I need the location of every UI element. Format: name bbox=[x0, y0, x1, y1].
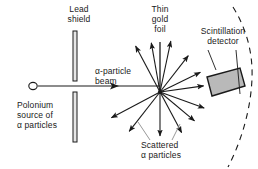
label-lead-shield: Lead shield bbox=[57, 4, 101, 24]
lead-shield-top-bar bbox=[73, 31, 77, 81]
label-scintillation-detector-line1: Scintillation bbox=[191, 26, 255, 36]
leader-line-scattered-left bbox=[138, 122, 150, 140]
label-polonium-source-line3: α particles bbox=[17, 120, 57, 130]
scattered-ray bbox=[129, 92, 160, 131]
label-polonium-source: Polonium source of α particles bbox=[17, 100, 57, 130]
polonium-source-icon bbox=[29, 82, 37, 89]
scattered-ray bbox=[160, 92, 204, 108]
scattered-alpha-rays bbox=[111, 41, 204, 136]
label-alpha-beam: α-particle beam bbox=[95, 66, 131, 86]
label-polonium-source-line1: Polonium bbox=[17, 100, 57, 110]
scattered-ray bbox=[160, 92, 195, 121]
label-thin-gold-foil-line2: gold bbox=[140, 14, 180, 24]
label-alpha-beam-line1: α-particle bbox=[95, 66, 131, 76]
label-thin-gold-foil-line3: foil bbox=[140, 24, 180, 34]
rutherford-scattering-diagram: Lead shield Thin gold foil Scintillation… bbox=[0, 0, 258, 169]
label-thin-gold-foil-line1: Thin bbox=[140, 4, 180, 14]
leader-line-detector-left bbox=[208, 50, 216, 70]
label-polonium-source-line2: source of bbox=[17, 110, 57, 120]
label-scintillation-detector-line2: detector bbox=[191, 36, 255, 46]
label-scattered-particles-line2: α particles bbox=[141, 150, 181, 160]
leader-line-scattered-right bbox=[172, 124, 180, 140]
label-alpha-beam-line2: beam bbox=[95, 76, 131, 86]
label-thin-gold-foil: Thin gold foil bbox=[140, 4, 180, 34]
label-scattered-particles-line1: Scattered bbox=[141, 140, 181, 150]
label-scattered-particles: Scattered α particles bbox=[141, 140, 181, 160]
label-lead-shield-line2: shield bbox=[57, 14, 101, 24]
label-lead-shield-line1: Lead bbox=[57, 4, 101, 14]
scattered-ray bbox=[111, 92, 160, 118]
lead-shield-bottom-bar bbox=[73, 92, 77, 142]
label-scintillation-detector: Scintillation detector bbox=[191, 26, 255, 46]
